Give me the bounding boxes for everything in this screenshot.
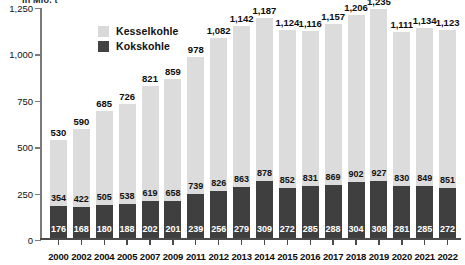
legend-swatch-icon (98, 26, 109, 37)
bar-slot: 530354176 (47, 8, 70, 238)
stacked-bar[interactable]: 1,187878309 (256, 18, 273, 238)
bar-segment-value-label: 849 (417, 173, 432, 183)
bar-segment-kesselkohle[interactable]: 739 (187, 57, 204, 194)
bar-segment-value-label: 180 (97, 224, 112, 234)
stacked-bar[interactable]: 859658201 (164, 79, 181, 238)
x-axis-tick-mark (310, 240, 311, 245)
x-axis-label-slot: 2002 (70, 246, 93, 264)
x-axis-tick-mark (126, 240, 127, 245)
x-axis-tick-label: 2004 (94, 251, 114, 262)
x-axis-labels: 2000200220042005200720092011201220132014… (40, 246, 461, 264)
x-axis-tick-label: 2000 (48, 251, 68, 262)
x-axis-tick-label: 2014 (254, 251, 274, 262)
bar-segment-kesselkohle[interactable]: 852 (279, 30, 296, 188)
x-axis-tick-slot (207, 240, 230, 245)
x-axis-tick-slot (345, 240, 368, 245)
stacked-bar[interactable]: 685505180 (96, 111, 113, 238)
x-axis-label-slot: 2014 (253, 246, 276, 264)
bar-segment-kokskohle[interactable]: 272 (279, 188, 296, 238)
bar-segment-kokskohle[interactable]: 281 (393, 186, 410, 238)
bar-segment-kesselkohle[interactable]: 354 (50, 140, 67, 206)
x-axis-tick-slot (367, 240, 390, 245)
bar-slot: 1,142863279 (230, 8, 253, 238)
bar-segment-value-label: 927 (371, 168, 386, 178)
bar-segment-kesselkohle[interactable]: 851 (439, 30, 456, 188)
bar-segment-value-label: 202 (142, 224, 157, 234)
stacked-bar[interactable]: 1,116831285 (302, 31, 319, 238)
x-axis-tick-mark (195, 240, 196, 245)
bar-slot: 1,124852272 (276, 8, 299, 238)
bar-segment-kesselkohle[interactable]: 927 (370, 9, 387, 181)
x-axis-label-slot: 2009 (161, 246, 184, 264)
bar-segment-kesselkohle[interactable]: 826 (210, 38, 227, 191)
x-axis-tick-slot (70, 240, 93, 245)
bar-segment-value-label: 201 (165, 224, 180, 234)
x-axis-tick-mark (355, 240, 356, 245)
bar-segment-kokskohle[interactable]: 239 (187, 194, 204, 238)
bar-segment-kokskohle[interactable]: 176 (50, 206, 67, 239)
x-axis-label-slot: 2000 (47, 246, 70, 264)
y-axis-tick-label: 1,000 (9, 49, 33, 60)
bar-segment-kokskohle[interactable]: 188 (119, 204, 136, 239)
bar-segment-kokskohle[interactable]: 168 (73, 207, 90, 238)
stacked-bar[interactable]: 1,111830281 (393, 32, 410, 238)
bar-segment-value-label: 168 (74, 224, 89, 234)
bar-segment-kesselkohle[interactable]: 863 (233, 26, 250, 186)
stacked-bar[interactable]: 590422168 (73, 129, 90, 239)
x-axis-label-slot: 2011 (184, 246, 207, 264)
bar-segment-kokskohle[interactable]: 279 (233, 187, 250, 239)
bar-total-label: 1,157 (321, 11, 345, 22)
x-axis-tick-label: 2002 (71, 251, 91, 262)
bar-segment-kokskohle[interactable]: 285 (416, 186, 433, 239)
bar-total-label: 1,142 (230, 13, 254, 24)
bar-segment-value-label: 852 (280, 175, 295, 185)
stacked-bar[interactable]: 726538188 (119, 104, 136, 239)
bar-segment-kokskohle[interactable]: 201 (164, 201, 181, 238)
bar-segment-kesselkohle[interactable]: 831 (302, 31, 319, 185)
bar-segment-kesselkohle[interactable]: 849 (416, 28, 433, 186)
bar-segment-kesselkohle[interactable]: 902 (348, 15, 365, 182)
bar-segment-kesselkohle[interactable]: 878 (256, 18, 273, 181)
bar-segment-value-label: 851 (440, 175, 455, 185)
bar-segment-kokskohle[interactable]: 285 (302, 186, 319, 239)
bar-segment-kokskohle[interactable]: 288 (325, 185, 342, 238)
stacked-bar[interactable]: 1,123851272 (439, 30, 456, 238)
stacked-bar[interactable]: 1,157869288 (325, 24, 342, 239)
bar-segment-kokskohle[interactable]: 180 (96, 205, 113, 238)
stacked-bar[interactable]: 978739239 (187, 57, 204, 239)
x-axis-tick-label: 2016 (300, 251, 320, 262)
bar-segment-kokskohle[interactable]: 309 (256, 181, 273, 238)
bar-segment-kokskohle[interactable]: 256 (210, 191, 227, 239)
bar-segment-kesselkohle[interactable]: 505 (96, 111, 113, 205)
x-axis-label-slot: 2012 (207, 246, 230, 264)
stacked-bar[interactable]: 1,235927308 (370, 9, 387, 238)
stacked-bar[interactable]: 1,206902304 (348, 15, 365, 239)
stacked-bar[interactable]: 821619202 (142, 86, 159, 238)
bar-segment-value-label: 422 (74, 194, 89, 204)
bar-total-label: 859 (165, 66, 181, 77)
y-axis-tick-label: 1,250 (9, 3, 33, 14)
bar-segment-value-label: 354 (51, 193, 66, 203)
bar-segment-value-label: 505 (97, 192, 112, 202)
bar-segment-kesselkohle[interactable]: 538 (119, 104, 136, 204)
stacked-bar[interactable]: 530354176 (50, 140, 67, 238)
bar-segment-kokskohle[interactable]: 304 (348, 182, 365, 238)
x-axis-tick-label: 2012 (209, 251, 229, 262)
stacked-bar[interactable]: 1,124852272 (279, 30, 296, 239)
y-axis-tick-label: 750 (17, 95, 33, 106)
bar-segment-kesselkohle[interactable]: 658 (164, 79, 181, 201)
bar-segment-kokskohle[interactable]: 202 (142, 201, 159, 238)
bar-segment-kesselkohle[interactable]: 869 (325, 24, 342, 185)
bar-segment-kesselkohle[interactable]: 422 (73, 129, 90, 207)
bar-segment-kesselkohle[interactable]: 619 (142, 86, 159, 201)
stacked-bar[interactable]: 1,134849285 (416, 28, 433, 238)
stacked-bar[interactable]: 1,142863279 (233, 26, 250, 238)
legend-swatch-icon (98, 41, 109, 52)
x-axis-tick-label: 2019 (369, 251, 389, 262)
bar-segment-value-label: 176 (51, 224, 66, 234)
stacked-bar[interactable]: 1,082826256 (210, 38, 227, 239)
bar-segment-kokskohle[interactable]: 272 (439, 188, 456, 238)
bar-segment-kesselkohle[interactable]: 830 (393, 32, 410, 186)
x-axis-tick-label: 2005 (117, 251, 137, 262)
bar-segment-kokskohle[interactable]: 308 (370, 181, 387, 238)
